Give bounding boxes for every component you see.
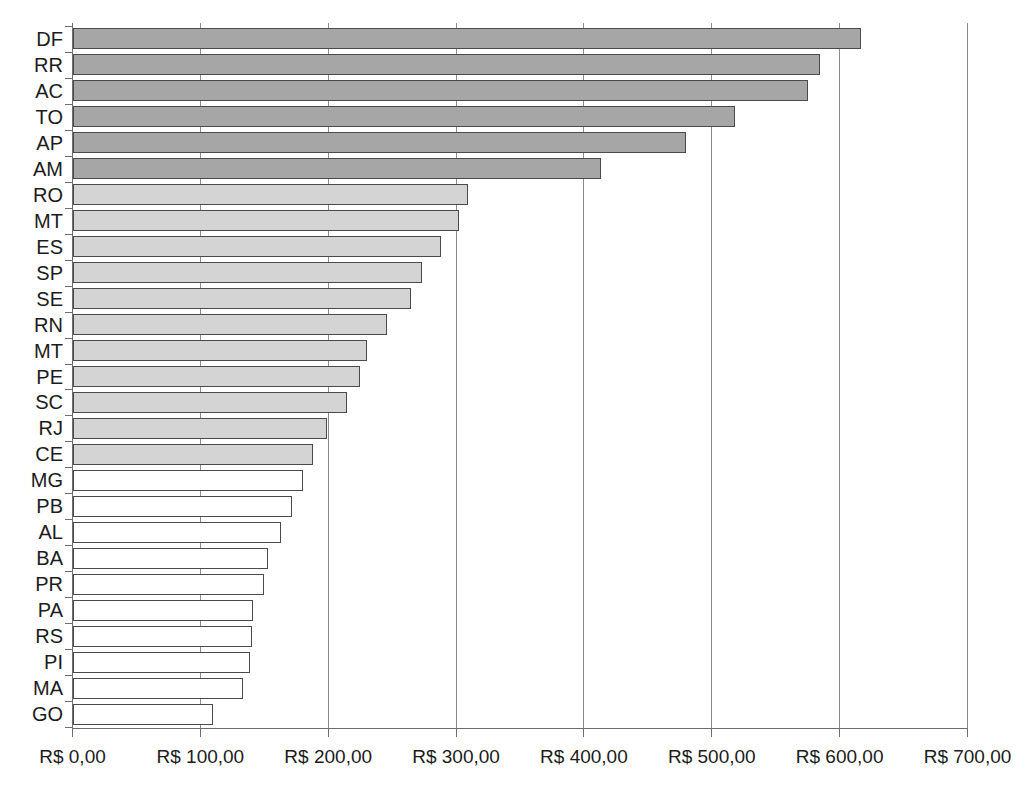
gridline-600 (839, 23, 840, 728)
bar (73, 522, 281, 543)
bar (73, 340, 367, 361)
y-axis-label: BA (0, 548, 63, 568)
y-axis-label-text: MT (0, 211, 63, 231)
bar (73, 496, 293, 517)
x-tick-mark-700 (967, 729, 968, 737)
y-axis-label-text: MT (0, 341, 63, 361)
y-axis-label-text: PI (0, 652, 63, 672)
bar (73, 262, 422, 283)
y-axis-label: MT (0, 341, 63, 361)
bar (73, 184, 468, 205)
y-axis-label-text: AM (0, 159, 63, 179)
bar (73, 574, 265, 595)
y-axis-label: PR (0, 574, 63, 594)
bar (73, 548, 269, 569)
bar (73, 132, 687, 153)
bar (73, 626, 252, 647)
y-axis-label: AP (0, 133, 63, 153)
bar (73, 80, 808, 101)
x-tick-mark-600 (839, 729, 840, 737)
y-axis-label: PA (0, 600, 63, 620)
bar (73, 236, 441, 257)
y-axis-label-text: MA (0, 678, 63, 698)
y-axis-label: AM (0, 159, 63, 179)
x-tick-mark-0 (72, 729, 73, 737)
y-axis-label-text: AC (0, 81, 63, 101)
y-axis-label-text: ES (0, 237, 63, 257)
bar (73, 210, 459, 231)
y-axis-label: SP (0, 263, 63, 283)
y-axis-label: PI (0, 652, 63, 672)
y-axis-line (72, 23, 73, 729)
x-tick-mark-100 (200, 729, 201, 737)
y-axis-label: TO (0, 107, 63, 127)
y-axis-label: AL (0, 522, 63, 542)
x-tick-mark-200 (328, 729, 329, 737)
y-axis-label: GO (0, 704, 63, 724)
x-axis-tick-label: R$ 500,00 (668, 746, 756, 768)
bar (73, 158, 601, 179)
gridline-300 (456, 23, 457, 728)
y-axis-label: MT (0, 211, 63, 231)
x-axis-tick-label: R$ 700,00 (924, 746, 1012, 768)
y-axis-label-text: BA (0, 548, 63, 568)
y-axis-label-text: AL (0, 522, 63, 542)
bar (73, 704, 214, 725)
y-axis-label: ES (0, 237, 63, 257)
y-axis-label-text: PB (0, 496, 63, 516)
y-axis-label: CE (0, 444, 63, 464)
x-axis-tick-label: R$ 0,00 (39, 746, 106, 768)
bar (73, 366, 361, 387)
y-axis-label-text: GO (0, 704, 63, 724)
y-axis-label: PE (0, 367, 63, 387)
bar-chart: DFRRACTOAPAMROMTESSPSERNMTPESCRJCEMGPBAL… (0, 0, 1029, 789)
x-axis-tick-label: R$ 600,00 (796, 746, 884, 768)
y-axis-label-text: AP (0, 133, 63, 153)
x-axis-tick-label: R$ 400,00 (540, 746, 628, 768)
y-axis-label-text: RJ (0, 418, 63, 438)
y-axis-label: MA (0, 678, 63, 698)
y-axis-label-text: DF (0, 29, 63, 49)
plot-area: DFRRACTOAPAMROMTESSPSERNMTPESCRJCEMGPBAL… (0, 0, 1029, 789)
y-axis-label-text: SC (0, 392, 63, 412)
y-axis-label: DF (0, 29, 63, 49)
bar (73, 54, 821, 75)
y-axis-label: RO (0, 185, 63, 205)
x-tick-mark-400 (583, 729, 584, 737)
bar (73, 106, 735, 127)
gridline-400 (583, 23, 584, 728)
x-tick-mark-500 (711, 729, 712, 737)
y-axis-label-text: CE (0, 444, 63, 464)
gridline-700 (967, 23, 968, 728)
bar (73, 288, 412, 309)
bar (73, 418, 327, 439)
bar (73, 314, 388, 335)
y-axis-label: RJ (0, 418, 63, 438)
y-axis-label: SE (0, 289, 63, 309)
bar (73, 470, 303, 491)
bar (73, 652, 251, 673)
y-axis-label-text: TO (0, 107, 63, 127)
y-axis-label: RS (0, 626, 63, 646)
y-axis-label: MG (0, 470, 63, 490)
y-axis-label-text: PE (0, 367, 63, 387)
bar (73, 444, 313, 465)
gridline-500 (711, 23, 712, 728)
bar (73, 28, 862, 49)
y-axis-label-text: PA (0, 600, 63, 620)
bar (73, 678, 243, 699)
y-axis-label: RR (0, 55, 63, 75)
y-axis-label: PB (0, 496, 63, 516)
y-axis-label: SC (0, 392, 63, 412)
x-axis-tick-label: R$ 200,00 (284, 746, 372, 768)
x-axis-tick-label: R$ 100,00 (157, 746, 245, 768)
y-axis-label-text: SE (0, 289, 63, 309)
y-axis-label-text: RN (0, 315, 63, 335)
y-axis-label-text: PR (0, 574, 63, 594)
bar (73, 392, 348, 413)
y-axis-label-text: RR (0, 55, 63, 75)
x-axis-tick-label: R$ 300,00 (412, 746, 500, 768)
x-tick-mark-300 (456, 729, 457, 737)
x-axis-line (73, 728, 968, 729)
y-axis-label: RN (0, 315, 63, 335)
